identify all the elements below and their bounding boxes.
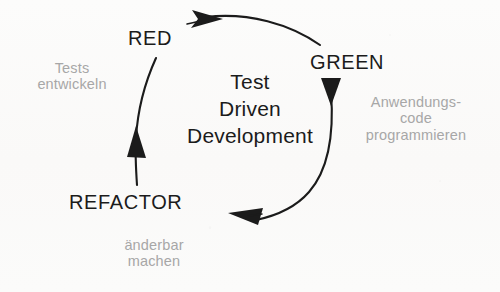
note-aenderbar-machen: änderbar machen	[96, 237, 212, 270]
arrow-refactor-to-red	[127, 58, 156, 185]
arrow-red-to-green	[187, 10, 320, 45]
stage-label-refactor: REFACTOR	[69, 191, 182, 214]
center-title-line-2: Driven	[175, 96, 325, 123]
center-title-line-3: Development	[175, 123, 325, 150]
note-tests-entwickeln: Tests entwickeln	[16, 60, 128, 93]
tdd-cycle-diagram: RED GREEN REFACTOR Test Driven Developme…	[0, 0, 500, 292]
center-title-line-1: Test	[175, 69, 325, 96]
note-anwendungscode-line-2: code	[345, 110, 487, 126]
note-aenderbar-machen-line-2: machen	[96, 253, 212, 269]
note-anwendungscode: Anwendungs- code programmieren	[345, 94, 487, 143]
note-aenderbar-machen-line-1: änderbar	[96, 237, 212, 253]
note-anwendungscode-line-1: Anwendungs-	[345, 94, 487, 110]
stage-label-red: RED	[128, 27, 172, 50]
note-tests-entwickeln-line-2: entwickeln	[16, 76, 128, 92]
note-tests-entwickeln-line-1: Tests	[16, 60, 128, 76]
note-anwendungscode-line-3: programmieren	[345, 127, 487, 143]
center-title: Test Driven Development	[175, 69, 325, 150]
